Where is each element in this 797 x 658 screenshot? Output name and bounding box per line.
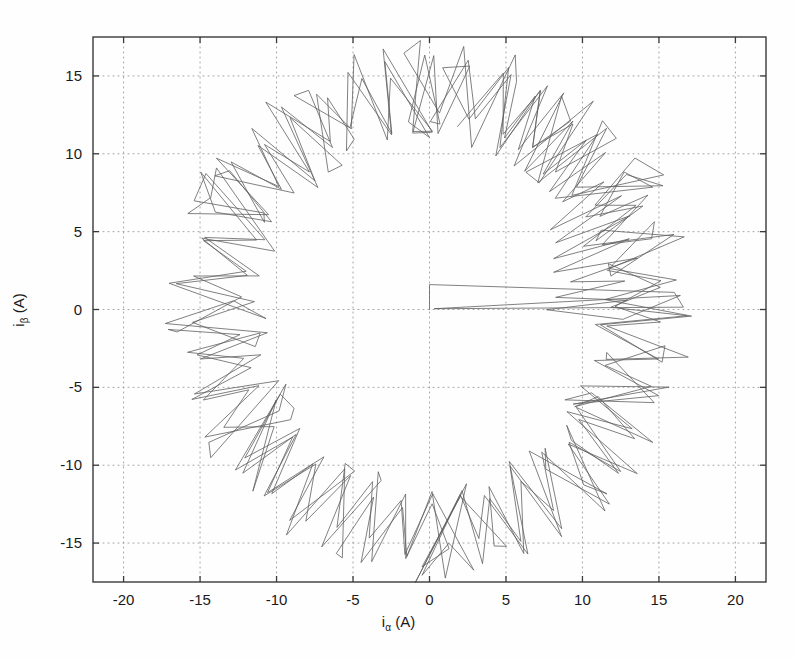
y-tick-label: 5 <box>74 223 82 240</box>
figure-container: -20-15-10-505101520-15-10-5051015 iα (A)… <box>0 0 797 658</box>
x-tick-label: -5 <box>346 591 359 608</box>
x-tick-label: -15 <box>189 591 211 608</box>
x-axis-label-unit: (A) <box>391 613 415 630</box>
x-tick-label: 15 <box>651 591 668 608</box>
y-tick-label: -10 <box>60 456 82 473</box>
y-axis-label-symbol: i <box>10 323 27 326</box>
x-tick-label: 0 <box>425 591 433 608</box>
x-tick-label: -20 <box>113 591 135 608</box>
y-tick-label: -5 <box>69 378 82 395</box>
y-axis-label-subscript: β <box>19 318 30 324</box>
y-tick-label: 15 <box>65 67 82 84</box>
tick-labels: -20-15-10-505101520-15-10-5051015 <box>60 67 743 608</box>
y-tick-label: 0 <box>74 301 82 318</box>
x-tick-label: -10 <box>266 591 288 608</box>
current-trajectory-trace <box>165 41 691 583</box>
y-axis-label: iβ (A) <box>10 250 30 370</box>
x-axis-label: iα (A) <box>0 613 797 633</box>
x-tick-label: 5 <box>502 591 510 608</box>
y-axis-label-unit: (A) <box>10 293 27 317</box>
y-tick-label: -15 <box>60 534 82 551</box>
x-tick-label: 10 <box>574 591 591 608</box>
x-tick-label: 20 <box>727 591 744 608</box>
y-tick-label: 10 <box>65 145 82 162</box>
alpha-beta-current-plot: -20-15-10-505101520-15-10-5051015 <box>0 0 797 658</box>
